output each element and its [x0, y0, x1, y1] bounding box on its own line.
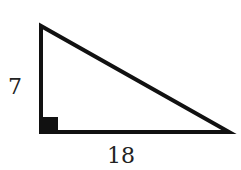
vertical-leg-label: 7: [8, 76, 22, 98]
horizontal-leg-label: 18: [107, 145, 135, 167]
right-triangle: [41, 26, 229, 132]
right-angle-marker: [42, 117, 58, 132]
